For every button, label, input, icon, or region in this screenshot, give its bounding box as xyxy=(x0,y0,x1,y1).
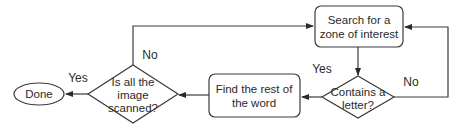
node-contains-letter: Contains a letter? xyxy=(322,76,394,118)
search-label-line2: zone of interest xyxy=(320,28,399,40)
scanned-label-line2: image xyxy=(117,89,148,101)
scanned-label-line3: scanned? xyxy=(108,102,158,114)
edge-label-scanned-yes: Yes xyxy=(68,71,88,85)
edge-label-contains-yes: Yes xyxy=(312,62,332,76)
edge-label-contains-no: No xyxy=(403,75,419,89)
node-find-rest: Find the rest of the word xyxy=(209,74,300,117)
scanned-label-line1: Is all the xyxy=(112,76,155,88)
search-label-line1: Search for a xyxy=(328,14,391,26)
node-search-zone: Search for a zone of interest xyxy=(315,6,403,47)
search-box-shape xyxy=(315,6,403,47)
find-box-shape xyxy=(209,74,300,117)
edge-label-scanned-no: No xyxy=(142,48,158,62)
find-label-line2: the word xyxy=(232,97,276,109)
flowchart-canvas: Search for a zone of interest Contains a… xyxy=(0,0,459,132)
contains-label-line2: letter? xyxy=(342,99,374,111)
contains-label-line1: Contains a xyxy=(331,86,387,98)
edge-scanned-to-search-loop xyxy=(133,26,313,65)
node-done: Done xyxy=(14,83,64,105)
node-image-scanned: Is all the image scanned? xyxy=(88,65,178,123)
done-label: Done xyxy=(25,88,53,100)
find-label-line1: Find the rest of xyxy=(216,83,294,95)
